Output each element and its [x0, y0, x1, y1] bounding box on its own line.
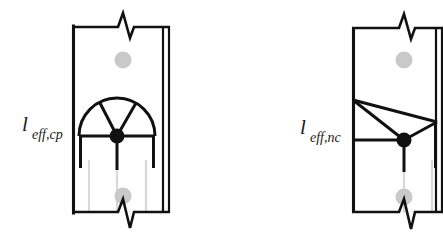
bolt-hole-top-left-panel	[115, 52, 132, 69]
label-leff-nc-subscript: eff,nc	[310, 130, 341, 145]
diagram-canvas: l eff,cp	[0, 0, 443, 241]
label-leff-cp-subscript: eff,cp	[32, 127, 63, 142]
bolt-hole-top-right-panel	[396, 52, 413, 69]
label-leff-cp-symbol: l	[22, 112, 28, 136]
canvas-background	[0, 0, 443, 241]
bolt-center-left-panel	[110, 129, 125, 144]
yield-line-figure: l eff,cp	[0, 0, 443, 241]
bolt-center-right-panel	[397, 133, 412, 148]
label-leff-nc-symbol: l	[300, 115, 306, 139]
